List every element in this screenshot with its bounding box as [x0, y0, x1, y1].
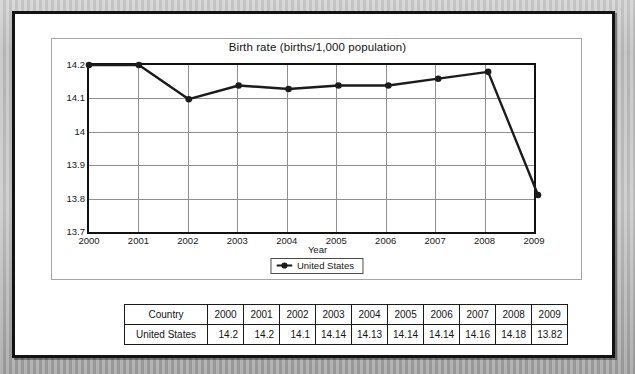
table-header-row: Country 2000 2001 2002 2003 2004 2005 20…: [125, 305, 568, 325]
table-header-cell: Country: [125, 305, 208, 325]
table-cell-country: United States: [125, 325, 208, 345]
table-header-cell: 2002: [280, 305, 316, 325]
table-header-cell: 2004: [352, 305, 388, 325]
table-row: United States 14.2 14.2 14.1 14.14 14.13…: [125, 325, 568, 345]
table-header-cell: 2003: [316, 305, 352, 325]
table-header-cell: 2001: [244, 305, 280, 325]
data-table: Country 2000 2001 2002 2003 2004 2005 20…: [124, 304, 568, 345]
table-cell-value: 14.2: [208, 325, 244, 345]
table-cell-value: 14.13: [352, 325, 388, 345]
table-header-cell: 2000: [208, 305, 244, 325]
plot-area: 14.2 14.1 14 13.9 13.8 13.7 2000 2001 20…: [87, 63, 536, 234]
table-header-cell: 2006: [424, 305, 460, 325]
table-cell-value: 14.14: [388, 325, 424, 345]
chart-container: Birth rate (births/1,000 population) 14.…: [51, 38, 582, 280]
table-cell-value: 14.18: [496, 325, 532, 345]
table-header-cell: 2005: [388, 305, 424, 325]
legend-label: United States: [297, 260, 354, 271]
table-cell-value: 14.1: [280, 325, 316, 345]
data-series-united-states: [83, 59, 544, 242]
table-header-cell: 2007: [460, 305, 496, 325]
chart-title: Birth rate (births/1,000 population): [52, 41, 583, 53]
legend-marker-icon: [276, 261, 292, 270]
table-cell-value: 14.14: [424, 325, 460, 345]
document-sheet: Birth rate (births/1,000 population) 14.…: [12, 11, 615, 358]
table-cell-value: 14.14: [316, 325, 352, 345]
scanned-page: Birth rate (births/1,000 population) 14.…: [0, 0, 635, 374]
table-header-cell: 2008: [496, 305, 532, 325]
table-header-cell: 2009: [532, 305, 568, 325]
table-cell-value: 14.16: [460, 325, 496, 345]
x-axis-title: Year: [52, 244, 583, 255]
table-cell-value: 13.82: [532, 325, 568, 345]
chart-legend: United States: [270, 258, 363, 274]
table-cell-value: 14.2: [244, 325, 280, 345]
